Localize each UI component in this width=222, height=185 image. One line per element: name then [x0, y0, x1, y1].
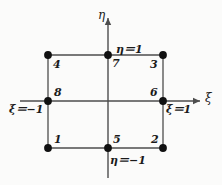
node-point-1[interactable]: [44, 144, 52, 152]
xi-axis-label: ξ: [205, 92, 212, 104]
eta-equals-one: η＝1: [116, 44, 143, 55]
node-label-1: 1: [54, 134, 62, 145]
node-point-3[interactable]: [159, 51, 167, 59]
eta-equals-minus-one: η＝−1: [110, 155, 146, 166]
node-label-4: 4: [53, 59, 61, 70]
node-label-2: 2: [151, 134, 159, 145]
node-point-7[interactable]: [104, 51, 112, 59]
eta-axis-arrowhead: [105, 18, 111, 25]
node-point-4[interactable]: [44, 51, 52, 59]
node-label-8: 8: [54, 87, 62, 98]
node-point-8[interactable]: [44, 97, 52, 105]
xi-equals-minus-one: ξ＝−1: [9, 104, 43, 115]
xi-axis-arrowhead: [193, 98, 200, 104]
node-point-2[interactable]: [159, 144, 167, 152]
natural-coordinate-element-diagram: 12345678η＝1η＝−1ξ＝−1ξ＝1ηξ: [0, 0, 222, 185]
eta-axis-label: η: [98, 9, 105, 21]
node-label-7: 7: [112, 58, 120, 69]
node-label-6: 6: [150, 87, 158, 98]
node-label-3: 3: [150, 59, 158, 70]
xi-equals-one: ξ＝1: [166, 104, 191, 115]
node-label-5: 5: [113, 134, 121, 145]
node-point-5[interactable]: [104, 144, 112, 152]
